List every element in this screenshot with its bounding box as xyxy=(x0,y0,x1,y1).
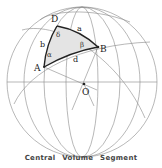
sphere-grid xyxy=(7,7,157,157)
point-O-dot xyxy=(83,83,86,86)
point-label-D: D xyxy=(51,14,58,24)
point-label-O: O xyxy=(82,87,89,97)
angle-label-beta: β xyxy=(80,41,84,49)
point-label-A: A xyxy=(33,63,41,73)
side-label-b: b xyxy=(40,40,45,49)
spherical-triangle-diagram: D B A O a b d δ β α xyxy=(0,0,162,168)
point-B-dot xyxy=(97,46,100,49)
side-label-a: a xyxy=(77,24,82,33)
point-label-B: B xyxy=(100,44,107,54)
figure-caption: Central Volume Segment xyxy=(0,154,162,162)
side-label-d: d xyxy=(73,55,78,64)
angle-label-delta: δ xyxy=(56,31,60,39)
spherical-triangle xyxy=(44,26,98,67)
angle-label-alpha: α xyxy=(47,51,52,59)
point-A-dot xyxy=(43,66,45,68)
